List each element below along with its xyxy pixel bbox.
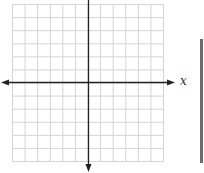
x-axis-label: x [180,74,187,88]
x-axis-left-arrow-icon [1,80,9,86]
y-axis-down-arrow-icon [86,164,92,172]
coordinate-plane [0,0,204,173]
y-axis [86,0,92,172]
x-axis-right-arrow-icon [167,80,175,86]
scrollbar[interactable] [200,39,203,163]
